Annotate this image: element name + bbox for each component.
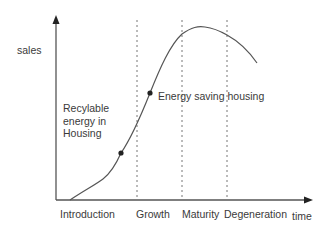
annotation-energy-saving: Energy saving housing (158, 91, 264, 102)
x-axis-label: time (292, 211, 312, 222)
marker-energy-saving (147, 90, 152, 95)
y-axis-arrow-icon (53, 15, 60, 24)
diagram-canvas (0, 0, 328, 230)
annotation-recyclable-energy: Recylable energy in Housing (63, 102, 125, 140)
stage-label-introduction: Introduction (60, 209, 115, 220)
stage-label-growth: Growth (136, 209, 170, 220)
stage-label-maturity: Maturity (182, 209, 219, 220)
marker-recyclable-energy (118, 150, 123, 155)
x-axis-arrow-icon (304, 197, 313, 204)
stage-label-degeneration: Degeneration (224, 209, 287, 220)
y-axis-label: sales (17, 45, 42, 56)
